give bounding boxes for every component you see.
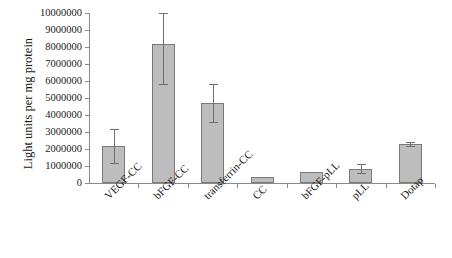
x-tick-label: pLL <box>349 180 371 202</box>
x-tick-label: transferrin-CC <box>201 148 255 202</box>
x-tick-label: Dotap <box>398 174 425 201</box>
bar-chart: Light units per mg protein 1000000090000… <box>0 0 452 258</box>
x-tick-label: VEGF-CC <box>102 160 144 202</box>
x-tick-label: bFGF-pLL <box>299 159 342 202</box>
x-axis-category-labels: VEGF-CCbFGF-CCtransferrin-CCCCbFGF-pLLpL… <box>0 0 452 258</box>
x-tick-label: CC <box>250 183 269 202</box>
x-tick-label: bFGF-CC <box>151 162 191 202</box>
